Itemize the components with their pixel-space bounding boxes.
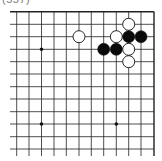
black-stone: [98, 43, 110, 55]
star-point: [115, 122, 119, 126]
go-board: [0, 0, 162, 161]
star-point: [40, 122, 44, 126]
white-stone: [73, 31, 85, 43]
white-stone: [123, 18, 135, 30]
black-stone: [135, 31, 147, 43]
star-point: [40, 48, 44, 52]
white-stone: [123, 43, 135, 55]
black-stone: [110, 43, 122, 55]
white-stone: [123, 56, 135, 68]
black-stone: [123, 31, 135, 43]
white-stone: [110, 31, 122, 43]
